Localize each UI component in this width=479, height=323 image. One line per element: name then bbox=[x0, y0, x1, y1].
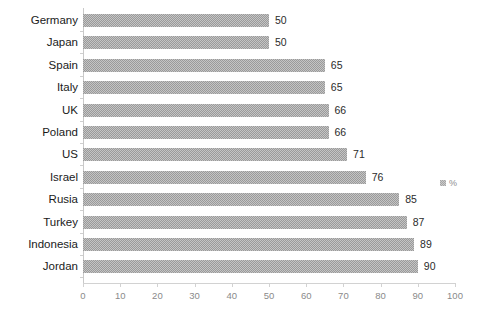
value-tick bbox=[343, 283, 344, 287]
category-tick bbox=[80, 31, 83, 32]
category-tick bbox=[80, 121, 83, 122]
bar bbox=[83, 14, 269, 27]
bar bbox=[83, 216, 407, 229]
bar-chart: GermanyJapanSpainItalyUKPolandUSIsraelRu… bbox=[0, 0, 479, 323]
value-tick-label: 20 bbox=[142, 290, 172, 302]
value-tick-label: 10 bbox=[105, 290, 135, 302]
bar-value-label: 65 bbox=[331, 81, 343, 94]
value-tick-label: 0 bbox=[68, 290, 98, 302]
category-tick bbox=[80, 53, 83, 54]
bar bbox=[83, 193, 399, 206]
value-tick-label: 50 bbox=[254, 290, 284, 302]
bar-value-label: 50 bbox=[275, 36, 287, 49]
bar bbox=[83, 238, 414, 251]
bar bbox=[83, 104, 329, 117]
value-tick-label: 60 bbox=[291, 290, 321, 302]
value-tick bbox=[157, 283, 158, 287]
category-label: Germany bbox=[0, 14, 78, 27]
category-tick bbox=[80, 188, 83, 189]
bar-value-label: 87 bbox=[413, 216, 425, 229]
value-tick-label: 30 bbox=[180, 290, 210, 302]
category-tick bbox=[80, 233, 83, 234]
category-label: Japan bbox=[0, 36, 78, 49]
value-tick-label: 90 bbox=[403, 290, 433, 302]
value-tick-label: 80 bbox=[366, 290, 396, 302]
bar-value-label: 66 bbox=[335, 126, 347, 139]
category-tick bbox=[80, 165, 83, 166]
value-tick bbox=[83, 283, 84, 287]
value-tick bbox=[269, 283, 270, 287]
category-label: Italy bbox=[0, 81, 78, 94]
category-label: UK bbox=[0, 104, 78, 117]
value-tick bbox=[232, 283, 233, 287]
category-label: Poland bbox=[0, 126, 78, 139]
bar-value-label: 50 bbox=[275, 14, 287, 27]
category-label: Israel bbox=[0, 171, 78, 184]
bar bbox=[83, 126, 329, 139]
value-tick-label: 100 bbox=[440, 290, 470, 302]
bar-value-label: 66 bbox=[335, 104, 347, 117]
category-tick bbox=[80, 277, 83, 278]
value-tick bbox=[306, 283, 307, 287]
value-tick bbox=[120, 283, 121, 287]
category-label: Turkey bbox=[0, 216, 78, 229]
bar-value-label: 76 bbox=[372, 171, 384, 184]
bar bbox=[83, 148, 347, 161]
value-axis: 0102030405060708090100 bbox=[83, 283, 455, 323]
value-tick bbox=[455, 283, 456, 287]
value-tick bbox=[381, 283, 382, 287]
bar-value-label: 85 bbox=[405, 193, 417, 206]
bar bbox=[83, 36, 269, 49]
category-tick bbox=[80, 255, 83, 256]
value-tick bbox=[418, 283, 419, 287]
legend: % bbox=[440, 178, 457, 188]
legend-swatch-icon bbox=[440, 180, 446, 186]
category-label: Jordan bbox=[0, 260, 78, 273]
bar-value-label: 89 bbox=[420, 238, 432, 251]
bar-value-label: 65 bbox=[331, 59, 343, 72]
category-tick bbox=[80, 143, 83, 144]
category-tick bbox=[80, 210, 83, 211]
category-axis: GermanyJapanSpainItalyUKPolandUSIsraelRu… bbox=[0, 0, 78, 283]
value-tick bbox=[195, 283, 196, 287]
category-label: Indonesia bbox=[0, 238, 78, 251]
category-label: Rusia bbox=[0, 193, 78, 206]
bar bbox=[83, 171, 366, 184]
bar bbox=[83, 81, 325, 94]
bar-value-label: 71 bbox=[353, 148, 365, 161]
bar bbox=[83, 260, 418, 273]
category-tick bbox=[80, 76, 83, 77]
legend-label: % bbox=[449, 178, 457, 188]
bar bbox=[83, 59, 325, 72]
bar-value-label: 90 bbox=[424, 260, 436, 273]
category-label: Spain bbox=[0, 59, 78, 72]
category-tick bbox=[80, 98, 83, 99]
value-tick-label: 40 bbox=[217, 290, 247, 302]
category-label: US bbox=[0, 148, 78, 161]
value-tick-label: 70 bbox=[328, 290, 358, 302]
plot-area: 505065656666717685878990 bbox=[83, 0, 455, 283]
